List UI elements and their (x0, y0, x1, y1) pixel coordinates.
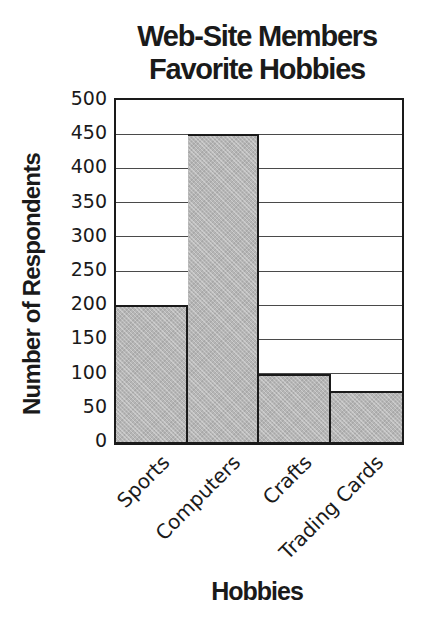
gridline (116, 168, 402, 169)
chart-title-line1: Web-Site Members (114, 20, 400, 53)
y-tick-label: 250 (55, 259, 107, 279)
gridline (116, 134, 402, 135)
bar-sports (116, 305, 188, 442)
y-tick-label: 0 (55, 430, 107, 450)
y-tick-label: 350 (55, 191, 107, 211)
chart-figure: Web-Site Members Favorite Hobbies Number… (0, 0, 422, 629)
chart-title: Web-Site Members Favorite Hobbies (114, 20, 400, 86)
y-axis-title: Number of Respondents (17, 134, 47, 434)
y-tick-label: 450 (55, 122, 107, 142)
x-axis-title: Hobbies (114, 577, 400, 605)
bar-crafts (259, 374, 331, 442)
y-tick-label: 200 (55, 293, 107, 313)
x-category-label: Crafts (259, 451, 317, 509)
y-tick-label: 150 (55, 327, 107, 347)
chart-title-line2: Favorite Hobbies (114, 53, 400, 86)
bar-trading-cards (331, 391, 403, 442)
x-category-label: Sports (112, 451, 173, 512)
y-tick-label: 500 (55, 88, 107, 108)
y-tick-label: 400 (55, 156, 107, 176)
gridline (116, 271, 402, 272)
y-tick-label: 300 (55, 225, 107, 245)
gridline (116, 236, 402, 237)
bar-computers (188, 134, 260, 442)
y-tick-label: 100 (55, 362, 107, 382)
gridline (116, 202, 402, 203)
plot-area (114, 98, 404, 445)
y-tick-label: 50 (55, 396, 107, 416)
